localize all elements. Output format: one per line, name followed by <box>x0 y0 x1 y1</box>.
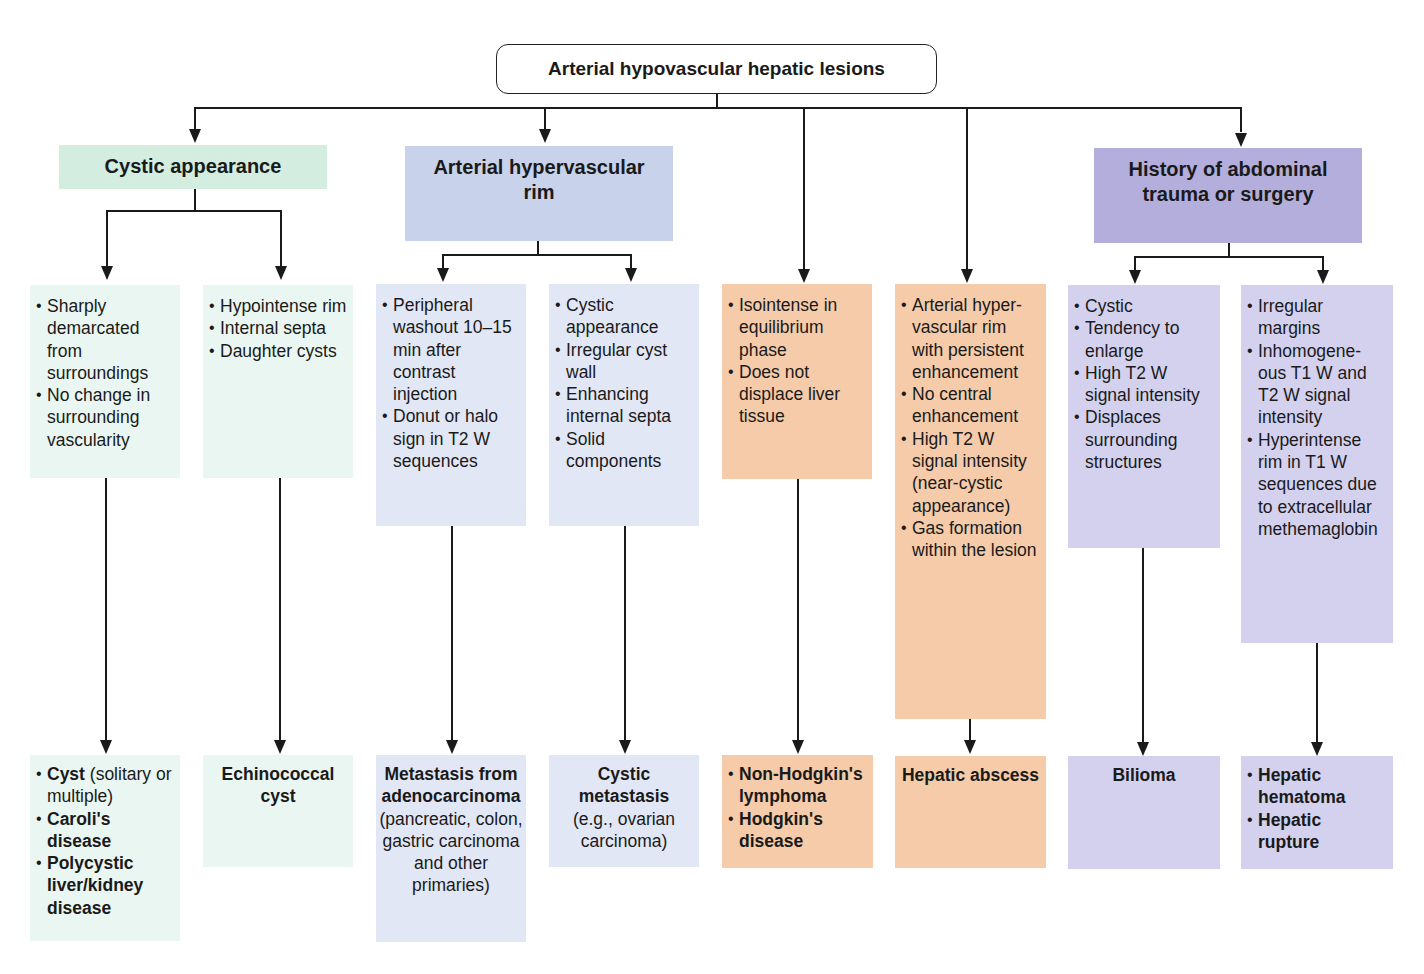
diagnosis-title: Hepatic abscess <box>895 764 1046 786</box>
diagnosis-item: Caroli's disease <box>47 808 174 853</box>
arrow-icon <box>437 268 449 282</box>
arrow-icon <box>1137 742 1149 756</box>
feature-item: Irregular cyst wall <box>566 339 693 384</box>
arrow-icon <box>792 740 804 754</box>
diagnosis-box-echinococcal-cyst: Echinococcal cyst <box>203 755 353 867</box>
feature-item: No central enhancement <box>912 383 1040 428</box>
diagnosis-box-cyst: Cyst (solitary or multiple) Caroli's dis… <box>30 755 180 941</box>
diagnosis-item: Cyst (solitary or multiple) <box>47 763 174 808</box>
arrow-icon <box>1129 270 1141 284</box>
category-title: History of abdominal trauma or surgery <box>1114 157 1342 243</box>
category-cystic-appearance: Cystic appearance <box>59 145 327 189</box>
diagnosis-item: Non-Hodgkin's lymphoma <box>739 763 867 808</box>
feature-box-cystic-metastasis: Cystic appearance Irregular cyst wall En… <box>549 284 699 526</box>
diagnosis-title: Cystic metastasis <box>567 763 681 808</box>
diagnosis-box-bilioma: Bilioma <box>1068 756 1220 869</box>
feature-item: Arterial hyper-vascular rim with persist… <box>912 294 1040 383</box>
category-arterial-hypervascular-rim: Arterial hypervascular rim <box>405 146 673 241</box>
feature-item: Enhancing internal septa <box>566 383 693 428</box>
arrow-icon <box>539 129 551 143</box>
feature-box-lymphoma: Isointense in equilibrium phase Does not… <box>722 284 872 479</box>
feature-item: Does not displace liver tissue <box>739 361 866 428</box>
diagnosis-item: Hepatic hematoma <box>1258 764 1387 809</box>
feature-box-simple-cyst: Sharply demarcated from surroundings No … <box>30 285 180 478</box>
feature-item: Cystic <box>1085 295 1214 317</box>
feature-item: Isointense in equilibrium phase <box>739 294 866 361</box>
feature-box-abscess: Arterial hyper-vascular rim with persist… <box>895 284 1046 719</box>
arrow-icon <box>964 740 976 754</box>
feature-item: Peripheral washout 10–15 min after contr… <box>393 294 520 405</box>
arrow-icon <box>446 740 458 754</box>
category-trauma-surgery: History of abdominal trauma or surgery <box>1094 148 1362 243</box>
diagnosis-item: Hodgkin's disease <box>739 808 867 853</box>
diagnosis-box-cystic-metastasis: Cystic metastasis (e.g., ovarian carcino… <box>549 755 699 867</box>
diagnosis-subtitle: (e.g., ovarian carcinoma) <box>573 809 675 851</box>
feature-item: Solid components <box>566 428 693 473</box>
feature-item: Donut or halo sign in T2 W sequences <box>393 405 520 472</box>
feature-item: No change in surrounding vascularity <box>47 384 174 451</box>
feature-item: Inhomogene-ous T1 W and T2 W signal inte… <box>1258 340 1387 429</box>
arrow-icon <box>1317 270 1329 284</box>
category-title: Arterial hypervascular rim <box>425 155 653 241</box>
feature-item: Gas formation within the lesion <box>912 517 1040 562</box>
arrow-icon <box>274 740 286 754</box>
diagnosis-subtitle: (pancreatic, colon, gastric carcinoma an… <box>380 809 523 896</box>
arrow-icon <box>1311 742 1323 756</box>
arrow-icon <box>625 268 637 282</box>
diagnosis-box-hematoma: Hepatic hematoma Hepatic rupture <box>1241 756 1393 869</box>
arrow-icon <box>798 269 810 283</box>
feature-box-hematoma: Irregular margins Inhomogene-ous T1 W an… <box>1241 285 1393 643</box>
feature-box-bilioma: Cystic Tendency to enlarge High T2 W sig… <box>1068 285 1220 548</box>
feature-box-echinococcal: Hypointense rim Internal septa Daughter … <box>203 285 353 478</box>
feature-item: Irregular margins <box>1258 295 1387 340</box>
feature-item: Internal septa <box>220 317 347 339</box>
arrow-icon <box>961 269 973 283</box>
diagnosis-title: Echinococcal cyst <box>217 763 339 808</box>
feature-item: Tendency to enlarge <box>1085 317 1214 362</box>
root-title: Arterial hypovascular hepatic lesions <box>548 58 885 80</box>
diagnosis-box-lymphoma: Non-Hodgkin's lymphoma Hodgkin's disease <box>722 755 873 868</box>
diagnosis-item: Polycystic liver/kidney disease <box>47 852 174 919</box>
feature-item: Hyperintense rim in T1 W sequences due t… <box>1258 429 1387 540</box>
arrow-icon <box>101 266 113 280</box>
arrow-icon <box>1235 133 1247 147</box>
feature-item: High T2 W signal intensity <box>1085 362 1214 407</box>
arrow-icon <box>100 740 112 754</box>
arrow-icon <box>189 129 201 143</box>
feature-item: Displaces surrounding structures <box>1085 406 1214 473</box>
feature-item: Cystic appearance <box>566 294 693 339</box>
feature-item: Daughter cysts <box>220 340 347 362</box>
category-title: Cystic appearance <box>105 154 282 189</box>
feature-box-adenocarcinoma-metastasis: Peripheral washout 10–15 min after contr… <box>376 284 526 526</box>
diagnosis-item: Hepatic rupture <box>1258 809 1387 854</box>
feature-item: Hypointense rim <box>220 295 347 317</box>
diagnosis-title: Bilioma <box>1068 764 1220 786</box>
diagnosis-box-hepatic-abscess: Hepatic abscess <box>895 756 1046 868</box>
feature-item: Sharply demarcated from surroundings <box>47 295 174 384</box>
feature-item: High T2 W signal intensity (near-cystic … <box>912 428 1040 517</box>
root-node: Arterial hypovascular hepatic lesions <box>496 44 937 94</box>
diagnosis-title: Metastasis from adenocarcinoma <box>376 763 526 808</box>
arrow-icon <box>275 266 287 280</box>
diagnosis-box-adenocarcinoma-metastasis: Metastasis from adenocarcinoma (pancreat… <box>376 755 526 942</box>
arrow-icon <box>619 740 631 754</box>
